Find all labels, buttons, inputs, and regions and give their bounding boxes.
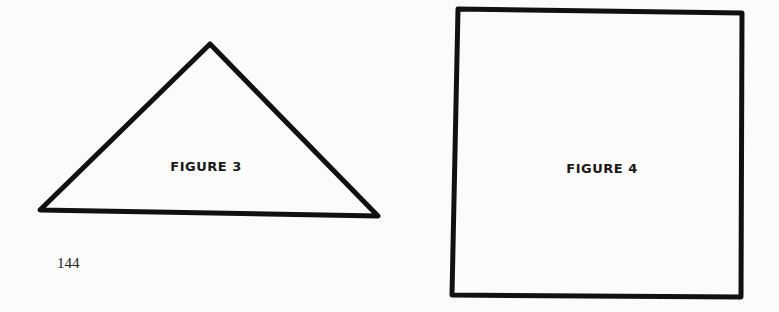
figure-3-triangle: [40, 44, 378, 216]
figure-4-label: FIGURE 4: [566, 161, 637, 176]
figure-3-label: FIGURE 3: [170, 159, 241, 174]
document-page: FIGURE 3 FIGURE 4 144: [0, 0, 779, 312]
page-number: 144: [57, 255, 80, 272]
figures-canvas: [0, 0, 779, 312]
figure-4-square: [452, 9, 742, 297]
